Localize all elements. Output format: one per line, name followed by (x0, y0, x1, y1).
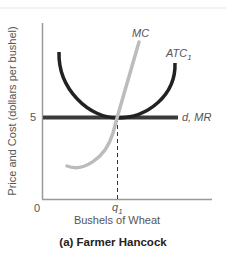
x-tick-0: 0 (34, 202, 40, 214)
y-axis-label: Price and Cost (dollars per bushel) (6, 26, 18, 195)
x-axis-label: Bushels of Wheat (0, 214, 226, 226)
mc-label: MC (132, 27, 149, 39)
chart-caption: (a) Farmer Hancock (0, 236, 226, 248)
y-tick-5: 5 (30, 111, 36, 123)
atc-label: ATC1 (166, 47, 192, 62)
mc-curve (67, 42, 139, 168)
atc-label-text: ATC (166, 47, 187, 59)
atc-curve (59, 52, 175, 118)
dmr-label: d, MR (182, 111, 211, 123)
atc-label-subscript: 1 (187, 53, 191, 62)
